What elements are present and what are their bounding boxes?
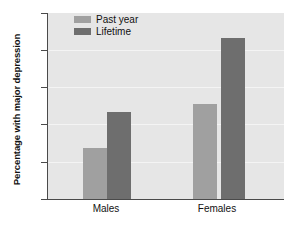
- legend-item-lifetime: Lifetime: [74, 26, 138, 37]
- bar-males-lifetime: [107, 112, 131, 199]
- gridline-15: [48, 87, 284, 88]
- gridline-20: [48, 50, 284, 51]
- legend-swatch-icon-past-year: [74, 16, 91, 23]
- legend-item-past-year: Past year: [74, 14, 138, 25]
- legend-swatch-icon-lifetime: [74, 28, 91, 35]
- y-axis-title: Percentage with major depression: [11, 30, 22, 190]
- x-label-males: Males: [61, 203, 151, 214]
- x-axis-line: [46, 199, 284, 200]
- x-label-females: Females: [172, 203, 262, 214]
- bar-chart: Percentage with major depression 25 20 1…: [0, 0, 296, 226]
- bar-females-lifetime: [221, 38, 245, 199]
- legend-label-lifetime: Lifetime: [96, 27, 131, 37]
- legend-label-past-year: Past year: [96, 15, 138, 25]
- gridline-10: [48, 124, 284, 125]
- legend: Past year Lifetime: [74, 14, 138, 38]
- plot-area: [47, 13, 284, 199]
- bar-females-past-year: [193, 104, 217, 199]
- bar-males-past-year: [83, 148, 107, 199]
